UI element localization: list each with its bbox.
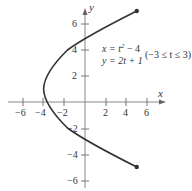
y-tick-label: 4	[72, 45, 77, 55]
x-tick-label: −2	[57, 108, 68, 118]
x-tick-label: 6	[144, 108, 149, 118]
y-axis-label: y	[89, 2, 94, 13]
y-tick-label: 2	[72, 71, 77, 81]
y-axis-arrow-icon	[83, 8, 88, 15]
x-axis-label: x	[158, 88, 163, 99]
x-tick-label: −4	[35, 108, 46, 118]
y-tick-label: −6	[67, 176, 78, 186]
x-axis-arrow-icon	[159, 100, 166, 105]
parameter-domain: (−3 ≤ t ≤ 3)	[145, 50, 191, 60]
x-tick-label: 2	[103, 108, 108, 118]
endpoint-top	[135, 9, 139, 13]
parametric-curve	[44, 11, 137, 167]
x-tick-label: −6	[15, 108, 26, 118]
endpoint-bottom	[135, 165, 139, 169]
y-tick-label: −2	[67, 124, 78, 134]
equation-x-suffix: − 4	[124, 43, 140, 54]
equation-x: x = t2 − 4	[102, 43, 140, 54]
plot-canvas	[0, 0, 192, 191]
equation-y: y = 2t + 1	[102, 56, 143, 66]
equation-x-text: x = t	[102, 43, 121, 54]
x-tick-label: 4	[123, 108, 128, 118]
y-tick-label: −4	[67, 150, 78, 160]
y-tick-label: 6	[72, 19, 77, 29]
